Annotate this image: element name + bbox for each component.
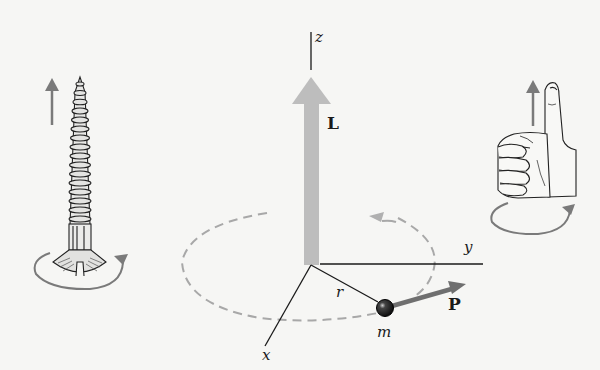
momentum-label: P	[448, 296, 461, 313]
orbit-direction-arrow-icon	[369, 212, 384, 222]
thumbs-up-hand-icon	[498, 83, 576, 198]
hand-up-arrow-icon	[526, 80, 540, 126]
right-hand-illustration	[491, 80, 576, 234]
hand-rotation-arrow-icon	[491, 203, 575, 234]
z-axis-label: z	[315, 30, 323, 45]
screw-up-arrow-icon	[45, 78, 59, 125]
screw-icon	[53, 77, 106, 276]
angular-momentum-label: L	[327, 115, 339, 132]
radius-vector	[311, 265, 378, 302]
radius-label: r	[336, 285, 343, 300]
screw-illustration	[35, 77, 128, 289]
mass-label: m	[377, 325, 391, 340]
diagram-svg	[0, 0, 600, 370]
angular-momentum-arrow	[292, 77, 331, 265]
y-axis-label: y	[464, 240, 472, 255]
x-axis-label: x	[262, 348, 270, 363]
x-axis	[265, 265, 311, 346]
angular-momentum-diagram: z L y r P m x	[0, 0, 600, 370]
mass-particle	[377, 300, 394, 317]
